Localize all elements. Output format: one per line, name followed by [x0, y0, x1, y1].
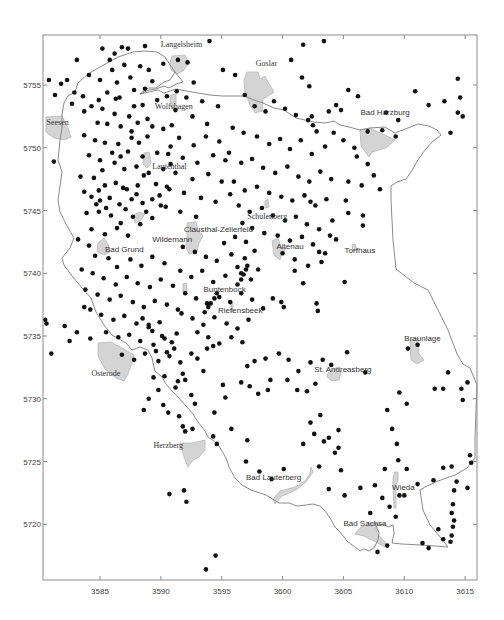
- sample-point: [159, 203, 164, 208]
- y-tick-label: 5755: [23, 81, 41, 90]
- sample-point: [146, 322, 151, 327]
- sample-point: [235, 326, 240, 331]
- sample-point: [249, 277, 254, 282]
- sample-point: [215, 442, 220, 447]
- sample-point: [163, 204, 168, 209]
- sample-point: [120, 45, 125, 50]
- sample-point: [306, 118, 311, 123]
- sampling-site-map: SeesenLangelsheimGoslarBad HarzburgWolfs…: [0, 0, 504, 620]
- sample-point: [165, 350, 170, 355]
- sample-point: [380, 128, 385, 133]
- sample-point: [252, 248, 257, 253]
- sample-point: [205, 122, 210, 127]
- town-area-schulenberg: [265, 199, 269, 208]
- sample-point: [273, 171, 278, 176]
- sample-point: [145, 117, 150, 122]
- sample-point: [215, 258, 220, 263]
- sample-point: [268, 378, 273, 383]
- sample-point: [358, 486, 363, 491]
- sample-point: [344, 198, 349, 203]
- sample-point: [97, 188, 102, 193]
- sample-point: [178, 360, 183, 365]
- sample-point: [406, 346, 411, 351]
- town-label: Clausthal-Zellerfeld: [184, 225, 253, 234]
- sample-point: [190, 114, 195, 119]
- sample-point: [316, 309, 321, 314]
- sample-point: [195, 161, 200, 166]
- sample-point: [135, 183, 140, 188]
- sample-point: [95, 120, 100, 125]
- sample-point: [292, 257, 297, 262]
- sample-point: [385, 543, 390, 548]
- sample-point: [182, 488, 187, 493]
- sample-point: [342, 280, 347, 285]
- sample-point: [49, 351, 54, 356]
- sample-point: [135, 281, 140, 286]
- sample-point: [221, 68, 226, 73]
- y-tick-label: 5750: [23, 144, 41, 153]
- sample-point: [256, 267, 261, 272]
- sample-point: [452, 488, 457, 493]
- sample-point: [200, 99, 205, 104]
- sample-point: [290, 198, 295, 203]
- sample-point: [283, 107, 288, 112]
- sample-point: [233, 235, 238, 240]
- sample-point: [143, 87, 148, 92]
- sample-point: [126, 46, 131, 51]
- sample-point: [157, 320, 162, 325]
- sample-point: [318, 413, 323, 418]
- sample-point: [137, 140, 142, 145]
- sample-point: [112, 112, 117, 117]
- sample-point: [313, 203, 318, 208]
- sample-point: [300, 75, 305, 80]
- sample-point: [330, 218, 335, 223]
- sample-point: [88, 336, 93, 341]
- sample-point: [246, 317, 251, 322]
- sample-point: [301, 43, 306, 48]
- sample-point: [312, 432, 317, 437]
- sample-point: [223, 274, 228, 279]
- sample-point: [378, 187, 383, 192]
- sample-point: [469, 461, 474, 466]
- sample-point: [368, 511, 373, 516]
- sample-point: [296, 369, 301, 374]
- sample-point: [115, 265, 120, 270]
- town-labels: SeesenLangelsheimGoslarBad HarzburgWolfs…: [47, 40, 442, 527]
- sample-point: [89, 194, 94, 199]
- sample-point: [202, 310, 207, 315]
- sample-point: [339, 108, 344, 113]
- x-tick-label: 3590: [152, 587, 170, 596]
- sample-point: [301, 281, 306, 286]
- sample-point: [308, 360, 313, 365]
- sample-point: [267, 191, 272, 196]
- sample-point: [47, 78, 52, 83]
- sample-point: [317, 250, 322, 255]
- town-label: Bad Lauterberg: [246, 473, 301, 482]
- sample-point: [296, 174, 301, 179]
- town-label: St. Andreasberg: [314, 365, 371, 374]
- sample-point: [112, 51, 117, 56]
- sample-point: [132, 104, 137, 109]
- sample-point: [352, 146, 357, 151]
- sample-point: [104, 330, 109, 335]
- sample-point: [375, 550, 380, 555]
- sample-point: [170, 123, 175, 128]
- sample-point: [294, 215, 299, 220]
- sample-point: [206, 335, 211, 340]
- sample-point: [232, 179, 237, 184]
- sample-point: [212, 296, 217, 301]
- sample-point: [333, 450, 338, 455]
- sample-point: [307, 84, 312, 89]
- sample-point: [166, 152, 171, 157]
- sample-point: [229, 335, 234, 340]
- sample-point: [167, 492, 172, 497]
- sample-point: [256, 391, 261, 396]
- sample-point: [449, 511, 454, 516]
- sample-point: [334, 237, 339, 242]
- town-label: Herzberg: [154, 441, 184, 450]
- sample-point: [342, 493, 347, 498]
- sample-point: [328, 233, 333, 238]
- sample-point: [305, 222, 310, 227]
- sample-point: [177, 135, 182, 140]
- town-label: Bad Grund: [105, 245, 144, 254]
